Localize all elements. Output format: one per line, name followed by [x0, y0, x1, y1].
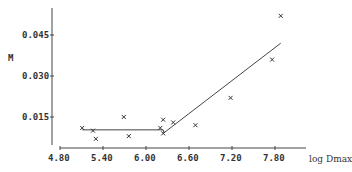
y-tick-label: 0.015 [22, 112, 49, 122]
x-tick-label: 6.00 [134, 153, 156, 163]
x-tick-label: 4.80 [48, 153, 70, 163]
data-point-x-marker [270, 58, 274, 62]
data-point-x-marker [161, 118, 165, 122]
x-tick-label: 6.60 [177, 153, 199, 163]
data-point-x-marker [171, 120, 175, 124]
data-point-x-marker [279, 14, 283, 18]
data-points [80, 14, 283, 141]
data-point-x-marker [80, 126, 84, 130]
data-point-x-marker [193, 123, 197, 127]
data-point-x-marker [94, 137, 98, 141]
y-axis-label: M [8, 53, 14, 63]
data-point-x-marker [127, 134, 131, 138]
y-tick-label: 0.030 [22, 71, 49, 81]
x-tick-label: 5.40 [91, 153, 113, 163]
x-axis-label: log Dmax [309, 154, 352, 164]
data-point-x-marker [229, 96, 233, 100]
scatter-chart: 0.0150.0300.045 4.805.406.006.607.207.80… [0, 0, 352, 172]
data-point-x-marker [91, 129, 95, 133]
data-point-x-marker [122, 115, 126, 119]
fit-line [82, 43, 281, 133]
data-point-x-marker [158, 126, 162, 130]
y-tick-label: 0.045 [22, 30, 49, 40]
x-tick-label: 7.80 [263, 153, 285, 163]
x-tick-label: 7.20 [220, 153, 242, 163]
